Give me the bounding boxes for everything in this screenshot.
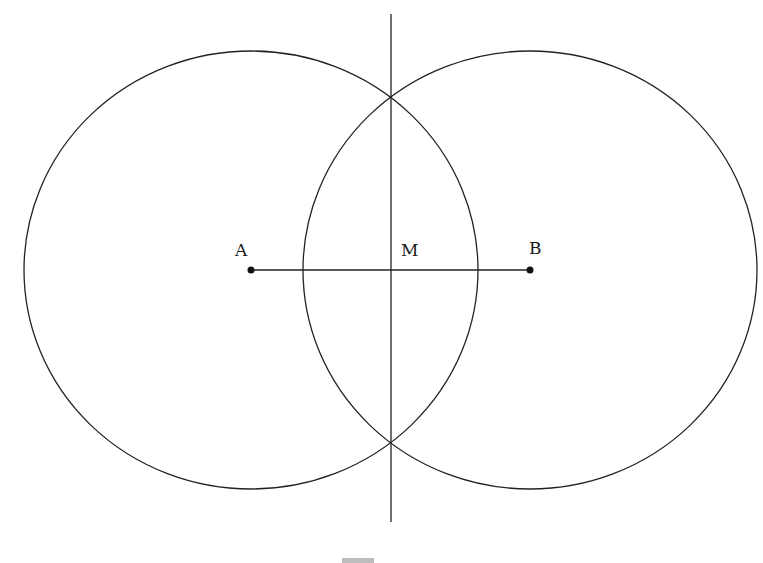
cropped-caption-fragment bbox=[342, 558, 374, 563]
point-a-dot bbox=[248, 267, 255, 274]
construction-diagram bbox=[0, 0, 763, 563]
label-a: A bbox=[235, 240, 247, 260]
label-b: B bbox=[529, 238, 542, 258]
label-m: M bbox=[401, 240, 418, 260]
point-b-dot bbox=[527, 267, 534, 274]
